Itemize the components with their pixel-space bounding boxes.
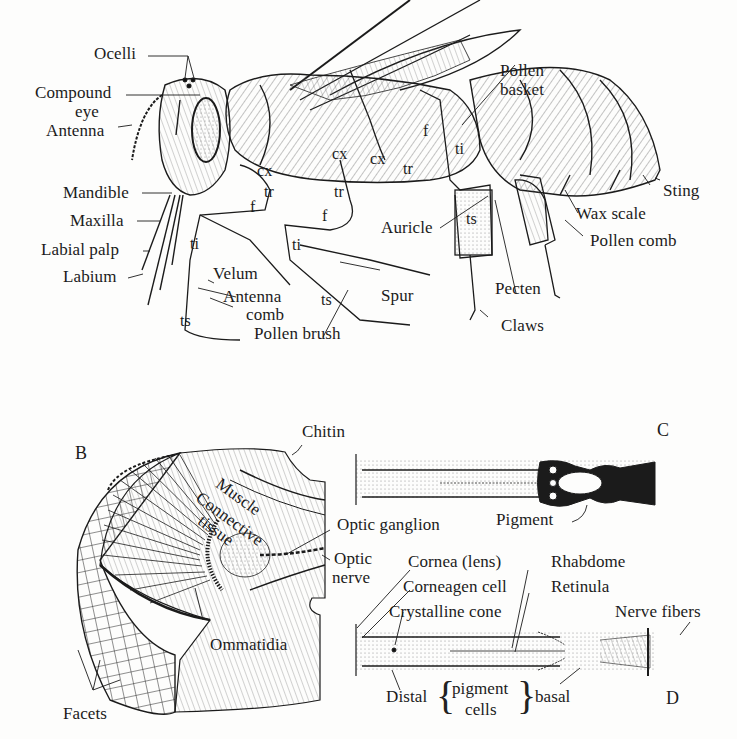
compound-eye-section — [77, 449, 325, 715]
segment-hind-tibia: ti — [455, 140, 464, 158]
label-compound-eye-line2: eye — [75, 103, 99, 121]
label-pollen-basket-line2: basket — [500, 81, 544, 99]
label-wax-scale: Wax scale — [576, 205, 646, 223]
label-chitin: Chitin — [302, 423, 345, 441]
label-compound-eye-line1: Compound — [35, 84, 111, 102]
panel-letter-c: C — [657, 420, 669, 441]
label-antenna-comb-line2: comb — [246, 306, 284, 324]
segment-hind-femur: f — [423, 122, 428, 140]
label-claws: Claws — [501, 317, 544, 335]
panel-letter-b: B — [75, 443, 87, 464]
segment-mid-femur: f — [322, 207, 327, 225]
segment-mid-coxa: cx — [332, 145, 347, 163]
label-facets: Facets — [63, 705, 107, 723]
label-velum: Velum — [213, 265, 258, 283]
label-antenna-comb-line1: Antenna — [223, 288, 281, 306]
label-antenna: Antenna — [46, 122, 104, 140]
segment-hind-trochanter: tr — [403, 160, 413, 178]
label-distal: Distal — [386, 688, 427, 706]
leader-line-pigment — [572, 505, 587, 522]
segment-mid-tarsus: ts — [321, 291, 332, 309]
label-labial-palp: Labial palp — [41, 241, 119, 259]
label-nerve-fibers: Nerve fibers — [615, 603, 701, 621]
segment-front-coxa: cx — [257, 162, 272, 180]
segment-mid-trochanter: tr — [334, 183, 344, 201]
label-maxilla: Maxilla — [70, 212, 124, 230]
abdomen — [470, 68, 660, 197]
figure-canvas: Ocelli Compound eye Antenna Mandible Max… — [0, 0, 737, 739]
label-corneagen-cell: Corneagen cell — [403, 578, 507, 596]
label-pollen-brush: Pollen brush — [254, 325, 341, 343]
label-pigment: Pigment — [496, 511, 553, 529]
label-pigment-cells-line2: cells — [465, 701, 497, 719]
segment-hind-tarsus: ts — [466, 210, 477, 228]
segment-front-trochanter: tr — [264, 183, 274, 201]
bee-anatomy-illustration — [0, 0, 737, 739]
label-optic-ganglion: Optic ganglion — [337, 516, 440, 534]
ommatidium-c — [356, 454, 656, 506]
label-crystalline-cone: Crystalline cone — [389, 603, 502, 621]
label-mandible: Mandible — [63, 184, 129, 202]
segment-hind-coxa: cx — [370, 150, 385, 168]
label-optic-nerve-line1: Optic — [334, 550, 372, 568]
label-pecten: Pecten — [495, 280, 541, 298]
label-pigment-cells-line1: pigment — [452, 680, 508, 698]
segment-mid-tibia: ti — [292, 236, 301, 254]
label-sting: Sting — [663, 182, 699, 200]
label-spur: Spur — [381, 287, 414, 305]
label-pollen-basket-line1: Pollen — [500, 62, 544, 80]
label-pollen-comb: Pollen comb — [590, 232, 677, 250]
label-basal: basal — [535, 688, 570, 706]
label-ocelli: Ocelli — [94, 45, 136, 63]
label-cornea-lens: Cornea (lens) — [408, 553, 501, 571]
label-rhabdome: Rhabdome — [551, 553, 625, 571]
label-labium: Labium — [63, 268, 116, 286]
label-ommatidia: Ommatidia — [210, 636, 287, 654]
label-optic-nerve-line2: nerve — [332, 569, 370, 587]
label-retinula: Retinula — [551, 578, 609, 596]
segment-front-tibia: ti — [190, 235, 199, 253]
ommatidium-d — [356, 624, 656, 676]
label-auricle: Auricle — [381, 219, 433, 237]
segment-front-femur: f — [250, 198, 255, 216]
brace-right-icon: } — [517, 676, 536, 716]
panel-letter-d: D — [666, 688, 679, 709]
segment-front-tarsus: ts — [180, 312, 191, 330]
